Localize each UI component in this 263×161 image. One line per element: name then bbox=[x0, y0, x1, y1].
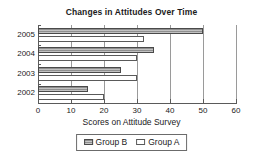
plot-area bbox=[38, 25, 236, 103]
legend-swatch-group-b bbox=[84, 139, 93, 145]
bar-chart: Changes in Attitudes Over Time 200520042… bbox=[0, 0, 263, 161]
bar-group-a bbox=[38, 36, 144, 42]
bar-group-a bbox=[38, 55, 137, 61]
y-tick-label: 2002 bbox=[1, 88, 35, 97]
x-tick-mark bbox=[236, 99, 237, 104]
bar-group-a bbox=[38, 75, 137, 81]
legend-item-group-a: Group A bbox=[136, 137, 179, 147]
x-axis-title: Scores on Attitude Survey bbox=[0, 117, 263, 127]
y-tick-label: 2003 bbox=[1, 69, 35, 78]
bar-group-b bbox=[38, 28, 203, 34]
y-tick-label: 2005 bbox=[1, 30, 35, 39]
bar-group bbox=[38, 45, 236, 65]
gridline bbox=[236, 25, 237, 103]
x-tick-label: 40 bbox=[157, 106, 183, 115]
bar-group bbox=[38, 84, 236, 104]
bar-group-a bbox=[38, 94, 104, 100]
legend-label-group-a: Group A bbox=[148, 137, 179, 147]
x-tick-label: 10 bbox=[58, 106, 84, 115]
y-axis-tick-labels: 2005200420032002 bbox=[0, 25, 35, 103]
bar-group-b bbox=[38, 47, 154, 53]
x-tick-label: 60 bbox=[223, 106, 249, 115]
legend-swatch-group-a bbox=[136, 139, 145, 145]
x-tick-label: 20 bbox=[91, 106, 117, 115]
chart-legend: Group B Group A bbox=[76, 134, 188, 151]
bar-group-b bbox=[38, 67, 121, 73]
x-tick-label: 30 bbox=[124, 106, 150, 115]
bar-group bbox=[38, 25, 236, 45]
bar-group bbox=[38, 64, 236, 84]
legend-label-group-b: Group B bbox=[96, 137, 128, 147]
x-tick-label: 50 bbox=[190, 106, 216, 115]
y-tick-label: 2004 bbox=[1, 49, 35, 58]
bar-group-b bbox=[38, 86, 88, 92]
legend-item-group-b: Group B bbox=[84, 137, 128, 147]
x-tick-label: 0 bbox=[25, 106, 51, 115]
chart-title: Changes in Attitudes Over Time bbox=[0, 7, 263, 17]
